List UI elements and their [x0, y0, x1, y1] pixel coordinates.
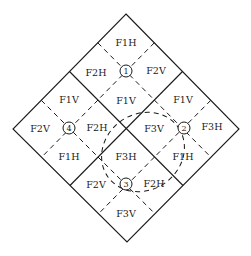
- label-right-bottom: F1H: [173, 151, 194, 162]
- label-right-right: F3H: [202, 121, 223, 132]
- marker-3: 3: [120, 178, 132, 190]
- label-bottom-bottom: F3V: [116, 208, 136, 219]
- label-left-right: F2H: [87, 122, 108, 133]
- label-left-left: F2V: [30, 123, 50, 134]
- marker-1: 1: [120, 65, 132, 77]
- pole-figure-diagram: 1 4 2 3 F1H F2H F2V F1V F1V F2V F2H F1H …: [0, 0, 251, 256]
- label-left-bottom: F1H: [59, 151, 80, 162]
- label-right-top: F1V: [173, 94, 193, 105]
- svg-text:3: 3: [123, 180, 128, 189]
- label-right-left: F3V: [144, 123, 164, 134]
- label-top-bottom: F1V: [116, 95, 136, 106]
- label-bottom-top: F3H: [116, 151, 137, 162]
- svg-text:4: 4: [66, 124, 71, 133]
- svg-text:1: 1: [123, 67, 128, 76]
- label-bottom-left: F2V: [86, 179, 106, 190]
- label-top-top: F1H: [116, 37, 137, 48]
- label-top-left: F2H: [86, 67, 107, 78]
- svg-text:2: 2: [181, 124, 186, 133]
- marker-2: 2: [178, 122, 190, 134]
- marker-4: 4: [63, 122, 75, 134]
- label-left-top: F1V: [59, 94, 79, 105]
- label-bottom-right: F2H: [144, 178, 165, 189]
- label-top-right: F2V: [146, 65, 166, 76]
